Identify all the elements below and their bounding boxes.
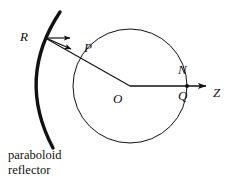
reflected-ray-arrow — [46, 38, 71, 49]
caption-line-2: reflector — [8, 163, 61, 178]
label-P: P — [84, 41, 92, 54]
label-Z: Z — [213, 86, 220, 99]
label-O: O — [113, 92, 122, 105]
paraboloid-reflector-caption: paraboloid reflector — [8, 148, 61, 178]
label-R: R — [20, 30, 28, 43]
label-N: N — [178, 63, 187, 76]
caption-line-1: paraboloid — [8, 148, 61, 163]
paraboloid-reflector-arc — [36, 12, 60, 148]
figure-container: R P O N Q Z paraboloid reflector — [0, 0, 233, 190]
label-Q: Q — [178, 89, 187, 102]
